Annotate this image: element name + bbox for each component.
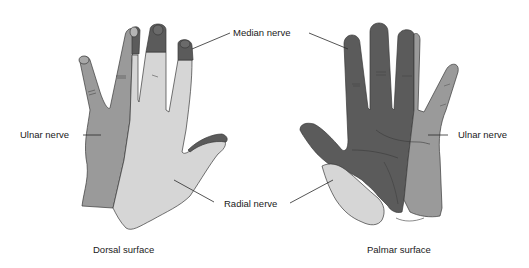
label-median-nerve: Median nerve <box>233 27 291 38</box>
hand-illustration <box>0 0 529 268</box>
leader-radial-palmar <box>290 180 333 203</box>
palmar-hand <box>300 23 458 225</box>
nerve-distribution-figure: Median nerve Ulnar nerve Ulnar nerve Rad… <box>0 0 529 268</box>
label-ulnar-nerve-dorsal: Ulnar nerve <box>20 129 69 140</box>
label-radial-nerve: Radial nerve <box>224 198 277 209</box>
caption-palmar-surface: Palmar surface <box>367 244 431 255</box>
label-ulnar-nerve-palmar: Ulnar nerve <box>458 129 507 140</box>
leader-median-palmar <box>309 33 348 49</box>
dorsal-hand <box>79 24 227 229</box>
caption-dorsal-surface: Dorsal surface <box>93 244 154 255</box>
leader-median-dorsal <box>192 33 230 49</box>
